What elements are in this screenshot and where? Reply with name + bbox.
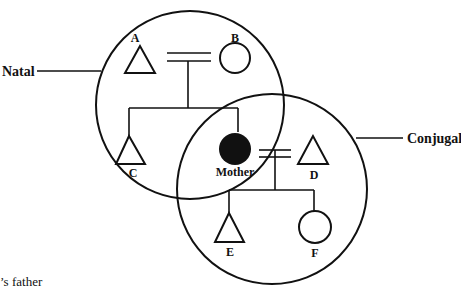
node-c-triangle	[116, 136, 145, 164]
node-a-label: A	[131, 31, 140, 45]
conjugal-label: Conjugal	[407, 131, 461, 146]
node-f-circle	[299, 211, 331, 243]
node-mother-circle	[219, 133, 251, 165]
caption-fragment: ’s father	[0, 274, 43, 288]
node-d-triangle	[298, 136, 328, 164]
node-e-label: E	[226, 245, 234, 259]
natal-label: Natal	[2, 64, 35, 79]
node-f-label: F	[311, 246, 318, 260]
conjugal-circle	[177, 94, 367, 284]
node-mother-label: Mother	[216, 165, 255, 179]
natal-circle	[96, 11, 284, 199]
node-a-triangle	[125, 46, 155, 73]
node-e-triangle	[215, 213, 244, 242]
node-b-circle	[220, 43, 250, 73]
node-d-label: D	[310, 168, 319, 182]
kinship-diagram: Natal Conjugal A B C Mother D E F ’s fat…	[0, 0, 461, 288]
node-c-label: C	[129, 166, 138, 180]
